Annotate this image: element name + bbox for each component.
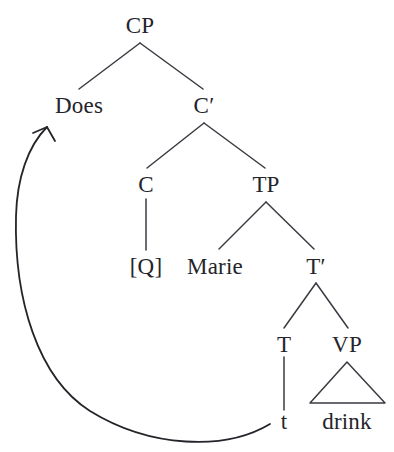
- edge-cp-cbar: [140, 43, 203, 89]
- edge-tp-tbar: [266, 202, 314, 249]
- node-tbar: T′: [306, 255, 325, 278]
- node-does: Does: [55, 94, 103, 117]
- node-tp: TP: [252, 173, 279, 196]
- edge-cbar-tp: [204, 123, 265, 168]
- node-t: T: [277, 333, 291, 356]
- edge-tbar-vp: [316, 283, 348, 328]
- node-cbar: C′: [194, 94, 215, 117]
- node-trace: t: [281, 410, 288, 433]
- edge-cp-does: [79, 43, 140, 89]
- node-cp: CP: [126, 14, 155, 37]
- tree-lines-svg: [0, 0, 394, 452]
- node-c: C: [138, 173, 154, 196]
- syntax-tree-diagram: CP Does C′ C TP [Q] Marie T′ T VP t drin…: [0, 0, 394, 452]
- vp-triangle: [310, 362, 385, 403]
- edge-tp-marie: [219, 202, 266, 249]
- node-drink: drink: [322, 410, 372, 433]
- node-vp: VP: [332, 333, 362, 356]
- node-q-feature: [Q]: [130, 255, 163, 278]
- node-marie: Marie: [187, 255, 243, 278]
- edge-tbar-t: [284, 283, 316, 328]
- edge-cbar-c: [147, 123, 204, 168]
